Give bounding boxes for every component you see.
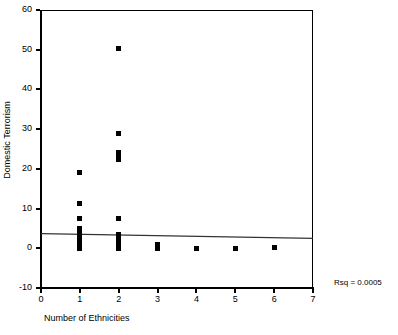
x-axis-title: Number of Ethnicities <box>44 313 130 323</box>
data-point <box>116 216 121 221</box>
data-point <box>77 170 82 175</box>
chart-root: -100102030405060 01234567 Domestic Terro… <box>0 0 398 335</box>
data-point <box>77 201 82 206</box>
data-point <box>116 131 121 136</box>
data-point <box>77 246 82 251</box>
data-point <box>116 46 121 51</box>
data-point <box>272 245 277 250</box>
data-point <box>77 216 82 221</box>
data-point <box>233 246 238 251</box>
y-axis-title: Domestic Terrorism <box>2 101 12 178</box>
data-point <box>116 157 121 162</box>
data-point <box>155 246 160 251</box>
data-point <box>116 246 121 251</box>
rsq-annotation: Rsq = 0.0005 <box>334 278 382 287</box>
data-point <box>194 246 199 251</box>
